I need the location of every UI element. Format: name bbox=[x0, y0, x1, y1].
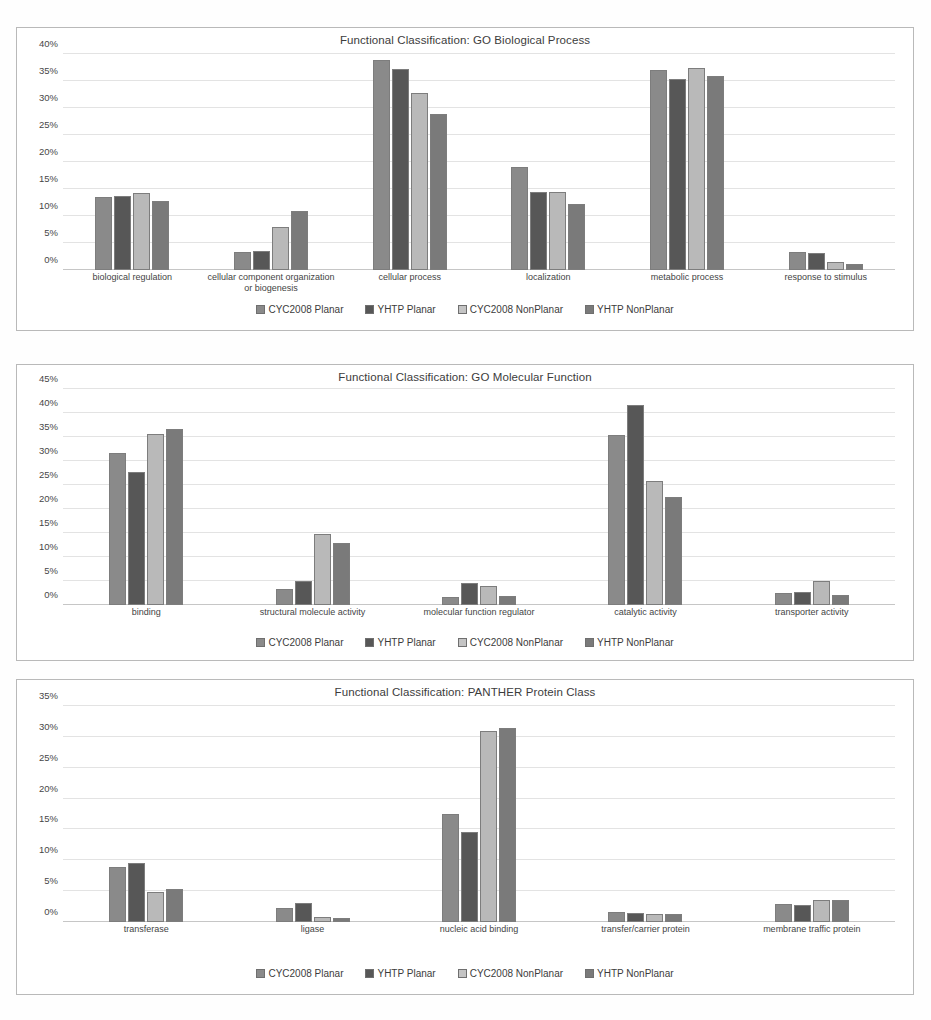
axis-area: 0%5%10%15%20%25%30%35% bbox=[63, 706, 895, 922]
bar bbox=[832, 900, 849, 922]
legend-swatch-icon bbox=[365, 305, 374, 314]
bar bbox=[665, 497, 682, 605]
x-axis-label: catalytic activity bbox=[562, 607, 728, 618]
bar bbox=[646, 481, 663, 605]
x-axis-label: transporter activity bbox=[729, 607, 895, 618]
y-tick-label: 15% bbox=[39, 813, 58, 824]
bar bbox=[430, 114, 447, 270]
chart-legend: CYC2008 PlanarYHTP PlanarCYC2008 NonPlan… bbox=[17, 637, 913, 648]
bar bbox=[608, 912, 625, 922]
legend-item: CYC2008 Planar bbox=[256, 637, 343, 648]
legend-item: YHTP NonPlanar bbox=[585, 968, 674, 979]
chart-legend: CYC2008 PlanarYHTP PlanarCYC2008 NonPlan… bbox=[17, 304, 913, 315]
y-tick-label: 5% bbox=[44, 875, 58, 886]
x-axis-label: transferase bbox=[63, 924, 229, 935]
y-tick-label: 25% bbox=[39, 751, 58, 762]
bar bbox=[333, 543, 350, 605]
bar-group bbox=[729, 706, 895, 922]
bar bbox=[646, 914, 663, 922]
bar bbox=[411, 93, 428, 270]
y-tick-label: 0% bbox=[44, 906, 58, 917]
bar bbox=[665, 914, 682, 922]
legend-item: YHTP Planar bbox=[365, 304, 435, 315]
bar bbox=[775, 904, 792, 923]
bar-group bbox=[562, 389, 728, 605]
legend-label: CYC2008 Planar bbox=[268, 637, 343, 648]
y-tick-label: 35% bbox=[39, 690, 58, 701]
bar bbox=[373, 60, 390, 270]
bar bbox=[392, 69, 409, 270]
bar-groups bbox=[63, 706, 895, 922]
bar bbox=[650, 70, 667, 270]
bar bbox=[95, 197, 112, 270]
legend-item: CYC2008 NonPlanar bbox=[458, 304, 563, 315]
legend-label: YHTP Planar bbox=[377, 968, 435, 979]
chart-title: Functional Classification: GO Molecular … bbox=[17, 371, 913, 383]
x-axis-label: nucleic acid binding bbox=[396, 924, 562, 935]
x-axis-labels: bindingstructural molecule activitymolec… bbox=[63, 607, 895, 618]
y-tick-label: 0% bbox=[44, 589, 58, 600]
bar-group bbox=[618, 54, 757, 270]
bar bbox=[832, 595, 849, 605]
y-tick-label: 10% bbox=[39, 200, 58, 211]
bar bbox=[442, 597, 459, 605]
bar-group bbox=[562, 706, 728, 922]
bar bbox=[147, 892, 164, 922]
bar bbox=[813, 581, 830, 605]
bar bbox=[152, 201, 169, 270]
legend-label: CYC2008 Planar bbox=[268, 304, 343, 315]
bar bbox=[775, 593, 792, 605]
bar bbox=[253, 251, 270, 270]
bar bbox=[133, 193, 150, 270]
chart-title: Functional Classification: PANTHER Prote… bbox=[17, 686, 913, 698]
bar bbox=[276, 589, 293, 605]
y-tick-label: 5% bbox=[44, 565, 58, 576]
bar bbox=[114, 196, 131, 270]
x-axis-label: localization bbox=[479, 272, 618, 294]
legend-swatch-icon bbox=[458, 305, 467, 314]
y-tick-label: 20% bbox=[39, 146, 58, 157]
legend-item: YHTP NonPlanar bbox=[585, 304, 674, 315]
bar bbox=[794, 905, 811, 922]
bar bbox=[480, 586, 497, 605]
bar bbox=[846, 264, 863, 270]
axis-area: 0%5%10%15%20%25%30%35%40% bbox=[63, 54, 895, 270]
y-tick-label: 40% bbox=[39, 38, 58, 49]
legend-swatch-icon bbox=[585, 305, 594, 314]
bar bbox=[627, 405, 644, 605]
y-tick-label: 15% bbox=[39, 517, 58, 528]
bar-group bbox=[340, 54, 479, 270]
bar bbox=[530, 192, 547, 270]
legend-item: CYC2008 Planar bbox=[256, 304, 343, 315]
legend-swatch-icon bbox=[256, 638, 265, 647]
bar bbox=[568, 204, 585, 270]
legend-label: YHTP NonPlanar bbox=[597, 637, 674, 648]
bar bbox=[295, 903, 312, 922]
bar bbox=[166, 429, 183, 605]
bar bbox=[272, 227, 289, 270]
legend-item: CYC2008 NonPlanar bbox=[458, 637, 563, 648]
chart-panel-panther-protein-class: Functional Classification: PANTHER Prote… bbox=[16, 679, 914, 995]
bar-group bbox=[63, 389, 229, 605]
bar-group bbox=[729, 389, 895, 605]
legend-swatch-icon bbox=[365, 969, 374, 978]
chart-panel-biological-process: Functional Classification: GO Biological… bbox=[16, 27, 914, 331]
x-axis-label: cellular process bbox=[340, 272, 479, 294]
plot-area: 0%5%10%15%20%25%30%35%40%45% bbox=[17, 389, 913, 605]
y-tick-label: 45% bbox=[39, 373, 58, 384]
legend-swatch-icon bbox=[585, 969, 594, 978]
bar-group bbox=[229, 389, 395, 605]
x-axis-labels: biological regulationcellular component … bbox=[63, 272, 895, 294]
bar-group bbox=[396, 706, 562, 922]
legend-label: CYC2008 NonPlanar bbox=[470, 637, 563, 648]
bar-group bbox=[479, 54, 618, 270]
x-axis-label: structural molecule activity bbox=[229, 607, 395, 618]
y-tick-label: 5% bbox=[44, 227, 58, 238]
legend-item: YHTP Planar bbox=[365, 968, 435, 979]
bar bbox=[480, 731, 497, 922]
bar bbox=[813, 900, 830, 922]
x-axis-label: biological regulation bbox=[63, 272, 202, 294]
y-tick-label: 10% bbox=[39, 844, 58, 855]
plot-area: 0%5%10%15%20%25%30%35% bbox=[17, 706, 913, 922]
y-tick-label: 40% bbox=[39, 397, 58, 408]
